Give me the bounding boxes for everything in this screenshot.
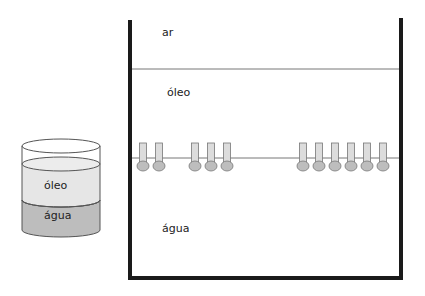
beaker-oil-label: óleo: [44, 179, 67, 192]
surfactant-molecule: [313, 143, 325, 171]
surfactant-molecule: [345, 143, 357, 171]
surfactant-molecule: [361, 143, 373, 171]
tank-oil-label: óleo: [167, 86, 190, 99]
surfactant-molecule: [189, 143, 201, 171]
surfactant-molecule: [137, 143, 149, 171]
tank: [128, 18, 403, 279]
surfactant-molecule: [153, 143, 165, 171]
tank-water-label: água: [162, 222, 189, 235]
surfactant-molecule: [329, 143, 341, 171]
surfactant-molecule: [297, 143, 309, 171]
surfactant-molecules: [137, 143, 389, 171]
surfactant-molecule: [205, 143, 217, 171]
surfactant-molecule: [221, 143, 233, 171]
beaker-water-label: água: [44, 209, 71, 222]
tank-air-label: ar: [162, 26, 173, 39]
surfactant-molecule: [377, 143, 389, 171]
diagram-canvas: [0, 0, 425, 296]
